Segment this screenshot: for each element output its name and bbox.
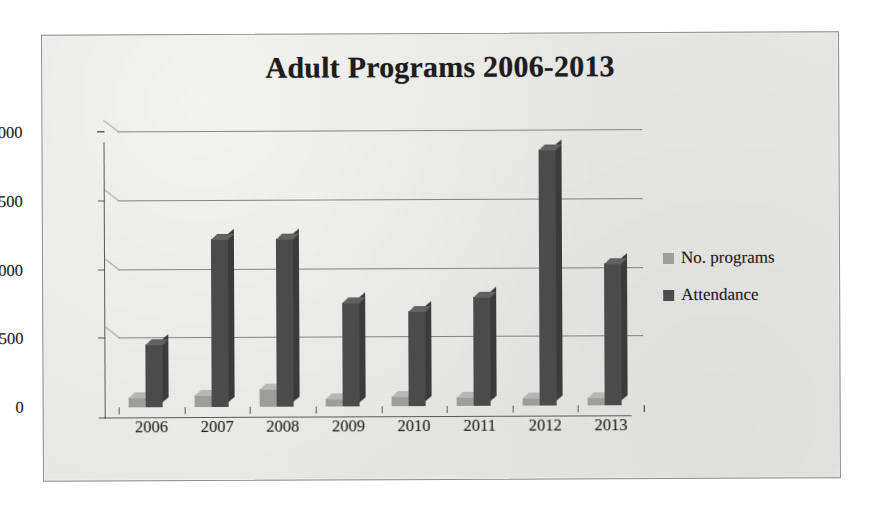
chart-page: Adult Programs 2006-2013 050010001500200… bbox=[0, 0, 875, 505]
x-tick-label-2006: 2006 bbox=[135, 417, 168, 437]
legend-label: Attendance bbox=[681, 285, 758, 305]
x-tick-label-2009: 2009 bbox=[332, 416, 365, 436]
x-tick-label-2012: 2012 bbox=[529, 415, 562, 435]
legend-swatch-icon bbox=[663, 289, 674, 300]
y-tick-0 bbox=[99, 417, 106, 418]
legend-item-attendance[interactable]: Attendance bbox=[663, 284, 813, 305]
bar-group-2006 bbox=[117, 132, 184, 407]
bar-front bbox=[194, 395, 211, 407]
bar-front bbox=[145, 344, 162, 407]
bar-group-2013 bbox=[577, 130, 644, 405]
bar-side bbox=[228, 228, 235, 401]
bar-programs-2008 bbox=[260, 389, 277, 407]
bar-programs-2006 bbox=[129, 397, 146, 407]
bar-attendance-2007 bbox=[211, 238, 229, 407]
bar-front bbox=[129, 397, 146, 407]
x-tick-2012 bbox=[512, 406, 513, 413]
bar-front bbox=[473, 297, 490, 406]
bar-programs-2011 bbox=[457, 397, 474, 406]
bar-front bbox=[391, 397, 408, 407]
bar-group-2007 bbox=[183, 132, 250, 407]
bar-front bbox=[211, 238, 229, 407]
bar-programs-2007 bbox=[194, 395, 211, 407]
x-tick-2011 bbox=[447, 406, 448, 413]
y-tick-label-500: 500 bbox=[0, 329, 23, 349]
plot-area bbox=[117, 130, 643, 407]
x-tick-label-2010: 2010 bbox=[398, 416, 431, 436]
x-tick-label-2008: 2008 bbox=[266, 417, 299, 437]
bar-front bbox=[457, 397, 474, 406]
bar-front bbox=[538, 150, 556, 406]
legend-swatch-icon bbox=[663, 252, 674, 263]
y-tick-label-1000: 1000 bbox=[0, 260, 23, 280]
x-tick-label-2011: 2011 bbox=[463, 416, 495, 436]
bar-attendance-2006 bbox=[145, 344, 162, 407]
x-tick-label-2007: 2007 bbox=[201, 417, 234, 437]
bar-group-2008 bbox=[249, 132, 316, 407]
bar-group-2012 bbox=[511, 130, 578, 405]
bar-front bbox=[260, 389, 277, 407]
bar-attendance-2008 bbox=[276, 238, 294, 407]
chart-frame: Adult Programs 2006-2013 050010001500200… bbox=[41, 31, 841, 481]
bar-front bbox=[276, 238, 294, 407]
x-tick-label-2013: 2013 bbox=[594, 415, 627, 435]
bar-programs-2009 bbox=[325, 398, 342, 406]
bar-programs-2013 bbox=[588, 397, 605, 405]
bar-group-2009 bbox=[314, 131, 381, 406]
bar-side bbox=[359, 292, 365, 402]
bar-front bbox=[604, 264, 622, 406]
legend-label: No. programs bbox=[681, 248, 775, 268]
bar-side bbox=[490, 287, 496, 401]
bar-side bbox=[555, 140, 562, 401]
x-axis-ticks bbox=[119, 405, 644, 415]
y-tick-500 bbox=[98, 338, 105, 339]
bar-side bbox=[293, 228, 300, 401]
chart-title: Adult Programs 2006-2013 bbox=[42, 48, 838, 85]
x-tick-end bbox=[644, 405, 645, 412]
x-tick-2009 bbox=[316, 407, 317, 414]
y-tick-1500 bbox=[98, 200, 105, 201]
bar-attendance-2013 bbox=[604, 264, 622, 406]
y-tick-label-1500: 1500 bbox=[0, 192, 23, 212]
y-tick-label-0: 0 bbox=[15, 398, 23, 418]
chart-legend: No. programsAttendance bbox=[663, 247, 813, 322]
bar-programs-2012 bbox=[522, 397, 539, 405]
bar-programs-2010 bbox=[391, 397, 408, 407]
bar-attendance-2009 bbox=[342, 302, 359, 407]
x-tick-2013 bbox=[578, 405, 579, 412]
bar-group-2010 bbox=[380, 131, 447, 406]
x-tick-2010 bbox=[381, 406, 382, 413]
legend-item-programs[interactable]: No. programs bbox=[663, 247, 813, 268]
y-axis-line bbox=[103, 142, 105, 418]
bar-attendance-2011 bbox=[473, 297, 490, 406]
bar-side bbox=[621, 254, 628, 401]
x-tick-2006 bbox=[119, 407, 120, 414]
bar-front bbox=[342, 302, 359, 407]
x-axis-tick-labels: 20062007200820092010201120122013 bbox=[119, 415, 644, 441]
y-axis-tick-labels: 0500100015002000 bbox=[34, 133, 35, 408]
y-tick-label-2000: 2000 bbox=[0, 123, 23, 143]
y-tick-1000 bbox=[98, 269, 105, 270]
bar-side bbox=[425, 301, 431, 401]
bar-front bbox=[408, 311, 425, 406]
x-tick-2007 bbox=[184, 407, 185, 414]
bar-group-2011 bbox=[446, 131, 513, 406]
y-tick-2000 bbox=[97, 131, 104, 132]
x-tick-2008 bbox=[250, 407, 251, 414]
bar-attendance-2010 bbox=[408, 311, 425, 406]
bar-attendance-2012 bbox=[538, 150, 556, 406]
